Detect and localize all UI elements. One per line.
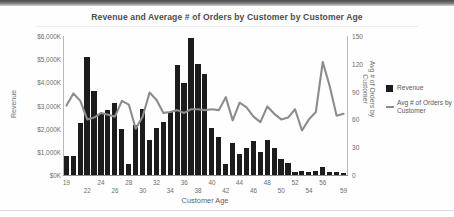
y-axis-right-tick: 30: [352, 144, 376, 151]
legend-label-avg-orders: Avg # of Orders by Customer: [397, 99, 452, 114]
plot-area: [63, 36, 347, 175]
legend-swatch-square: [386, 85, 393, 92]
chart-title: Revenue and Average # of Orders by Custo…: [40, 12, 414, 22]
x-axis-tick-label: 59: [336, 187, 352, 194]
x-axis-tick-label: 56: [315, 179, 331, 186]
x-axis-line: [63, 175, 348, 176]
x-axis-tick-label: 54: [301, 187, 317, 194]
x-axis-tick-label: 44: [232, 179, 248, 186]
x-axis-tick-label: 50: [273, 187, 289, 194]
y-axis-right-tick: 150: [352, 33, 376, 40]
x-axis-tick-label: 30: [135, 187, 151, 194]
y-axis-left-tick: $2,000K: [15, 125, 61, 132]
y-axis-left-tick: $1,000K: [15, 149, 61, 156]
legend-item-avg-orders: Avg # of Orders by Customer: [386, 99, 452, 114]
x-axis-tick-label: 36: [176, 179, 192, 186]
x-axis-tick-label: 28: [121, 179, 137, 186]
y-axis-left-tick: $4,000K: [15, 79, 61, 86]
x-axis-tick-label: 52: [287, 179, 303, 186]
x-axis-tick-label: 24: [93, 179, 109, 186]
x-axis-title: Customer Age: [140, 196, 270, 205]
y-axis-left-tick: $5,000K: [15, 56, 61, 63]
x-axis-tick-label: 48: [259, 179, 275, 186]
y-axis-right-tick: 90: [352, 88, 376, 95]
x-axis-tick-label: 32: [149, 179, 165, 186]
y-axis-left-tick: $6,000K: [15, 33, 61, 40]
y-axis-right-tick: 0: [352, 172, 376, 179]
x-axis-tick-label: 38: [190, 187, 206, 194]
sheet-bottom-border: [0, 210, 454, 211]
line-series-avg-orders: [63, 36, 347, 175]
title-divider: [36, 26, 418, 27]
x-axis-tick-label: 46: [245, 187, 261, 194]
legend-item-revenue: Revenue: [386, 84, 452, 92]
x-axis-tick-label: 22: [79, 187, 95, 194]
y-axis-right-line: [347, 36, 348, 176]
line-path: [66, 62, 343, 131]
chart-legend: Revenue Avg # of Orders by Customer: [386, 84, 452, 121]
x-axis-tick-label: 19: [58, 179, 74, 186]
y-axis-right-tick: 120: [352, 60, 376, 67]
y-axis-left-tick: $3,000K: [15, 102, 61, 109]
legend-swatch-line: [386, 106, 394, 108]
x-axis-tick-label: 26: [107, 187, 123, 194]
legend-label-revenue: Revenue: [397, 84, 423, 92]
y-axis-right-tick: 60: [352, 116, 376, 123]
y-axis-left-tick: $0K: [15, 172, 61, 179]
x-axis-tick-label: 40: [204, 179, 220, 186]
x-axis-tick-label: 34: [162, 187, 178, 194]
x-axis-tick-label: 42: [218, 187, 234, 194]
